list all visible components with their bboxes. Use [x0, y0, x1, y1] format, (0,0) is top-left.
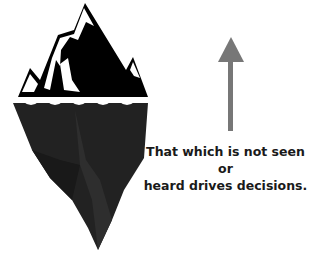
caption: That which is not seen or heard drives d… — [140, 143, 311, 194]
caption-line-1: That which is not seen or — [140, 143, 311, 177]
caption-line-2: heard drives decisions. — [140, 177, 311, 194]
arrow-up-icon — [0, 0, 311, 255]
